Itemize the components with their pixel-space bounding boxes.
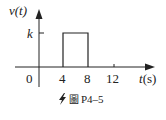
figure-glyph: 圖 — [69, 91, 79, 106]
x-tick-label-12: 12 — [106, 72, 119, 85]
x-axis-label: t(s) — [139, 72, 156, 85]
level-label-k: k — [27, 27, 33, 40]
figure-number: P4–5 — [81, 93, 104, 105]
figure-caption: 圖 P4–5 — [58, 91, 104, 106]
x-tick-label-8: 8 — [84, 72, 91, 85]
x-tick-label-4: 4 — [59, 72, 66, 85]
y-axis-arrow-icon — [36, 9, 43, 19]
pulse-waveform — [63, 33, 88, 67]
origin-label: 0 — [26, 72, 33, 85]
x-axis-arrow-icon — [145, 64, 155, 71]
y-axis-label: v(t) — [9, 4, 27, 17]
lightning-icon — [58, 93, 67, 105]
